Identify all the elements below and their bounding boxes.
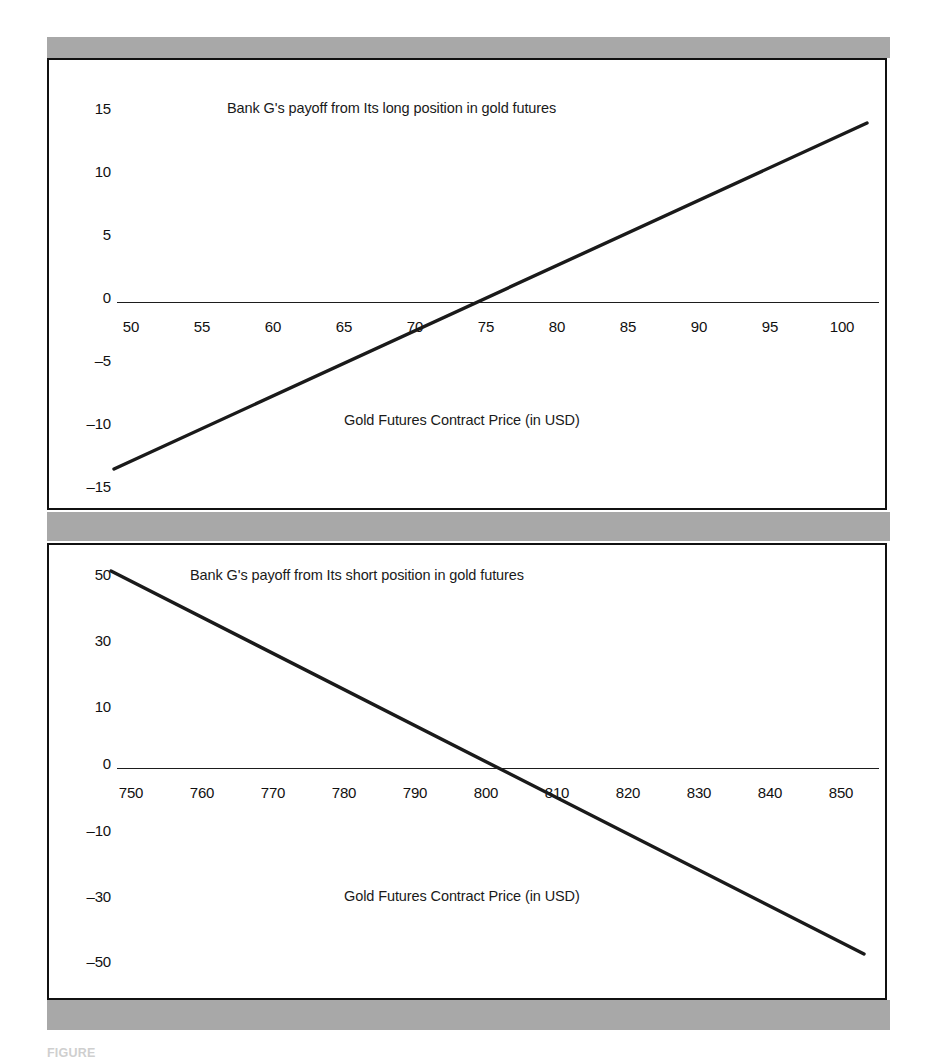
figure-caption: FIGURE [47,1046,95,1057]
chart-panel-long-position: Bank G's payoff from Its long position i… [47,58,887,510]
decorative-band-middle [47,512,890,541]
payoff-line-long [49,60,889,512]
decorative-band-top [47,37,890,58]
plot-area-short: Bank G's payoff from Its short position … [49,545,885,998]
plot-area-long: Bank G's payoff from Its long position i… [49,60,885,508]
decorative-band-bottom [47,1000,890,1030]
chart-panel-short-position: Bank G's payoff from Its short position … [47,543,887,1000]
payoff-line-short [49,545,889,1002]
figure-container: Bank G's payoff from Its long position i… [47,37,890,1030]
